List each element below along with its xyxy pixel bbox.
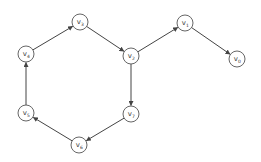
node-v6: v6 [71,137,87,153]
edge-v2-to-v1 [138,27,178,51]
node-v3: v3 [72,14,88,30]
edge-v1-to-v0 [192,28,230,55]
edge-v3-to-v2 [87,26,124,51]
node-v4: v4 [18,46,34,62]
edge-v6-to-v5 [33,117,72,140]
node-v0: v0 [229,51,245,67]
node-v7: v7 [123,106,139,122]
edge-v7-to-v6 [86,118,124,141]
edges-layer [26,26,230,141]
directed-graph: v0v1v2v3v4v5v6v7 [0,0,261,162]
node-v1: v1 [177,15,193,31]
node-v5: v5 [18,105,34,121]
node-v2: v2 [123,48,139,64]
edge-v4-to-v3 [33,26,73,50]
